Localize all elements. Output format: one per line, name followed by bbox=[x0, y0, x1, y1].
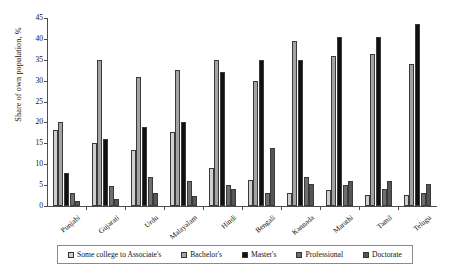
legend-label: Some college to Associate's bbox=[77, 250, 161, 259]
y-axis-tick-label: 5 bbox=[25, 181, 43, 189]
legend-item[interactable]: Some college to Associate's bbox=[68, 250, 161, 259]
legend-item[interactable]: Bachelor's bbox=[181, 250, 222, 259]
y-axis-tick-label: 40 bbox=[25, 35, 43, 43]
chart-legend: Some college to Associate'sBachelor'sMas… bbox=[57, 245, 413, 264]
y-axis-tick-label: 35 bbox=[25, 56, 43, 64]
legend-swatch-icon bbox=[242, 252, 248, 258]
plot-area: 051015202530354045 PunjabiGujaratiUrduMa… bbox=[47, 18, 437, 207]
x-axis-tick-mark bbox=[281, 207, 282, 210]
y-axis-tick-label: 0 bbox=[25, 202, 43, 210]
legend-label: Doctorate bbox=[372, 250, 402, 259]
x-axis-tick-mark bbox=[125, 207, 126, 210]
bar-group bbox=[365, 18, 392, 206]
bar bbox=[170, 132, 175, 206]
legend-swatch-icon bbox=[68, 252, 74, 258]
bar bbox=[214, 60, 219, 206]
bar bbox=[248, 180, 253, 206]
bar bbox=[226, 185, 231, 206]
bar bbox=[382, 189, 387, 206]
bar bbox=[64, 173, 69, 206]
y-axis-tick-mark bbox=[44, 122, 47, 123]
bar bbox=[114, 199, 119, 206]
x-axis-tick-mark bbox=[164, 207, 165, 210]
bar bbox=[376, 37, 381, 206]
y-axis-tick-label: 25 bbox=[25, 98, 43, 106]
y-axis-tick-label: 15 bbox=[25, 140, 43, 148]
bar bbox=[153, 193, 158, 206]
bar bbox=[409, 64, 414, 206]
bar bbox=[97, 60, 102, 206]
bar bbox=[292, 41, 297, 206]
y-axis-tick-mark bbox=[44, 18, 47, 19]
y-axis-tick-mark bbox=[44, 164, 47, 165]
bar bbox=[387, 181, 392, 206]
bar bbox=[421, 193, 426, 206]
bar bbox=[75, 201, 80, 206]
bar bbox=[259, 60, 264, 206]
legend-swatch-icon bbox=[181, 252, 187, 258]
bar bbox=[253, 81, 258, 206]
legend-swatch-icon bbox=[363, 252, 369, 258]
bar bbox=[404, 195, 409, 206]
bar bbox=[181, 122, 186, 206]
bar bbox=[337, 37, 342, 206]
y-axis-tick-label: 20 bbox=[25, 119, 43, 127]
bar bbox=[415, 24, 420, 206]
bar bbox=[231, 189, 236, 206]
bar bbox=[131, 150, 136, 206]
legend-item[interactable]: Doctorate bbox=[363, 250, 402, 259]
bar bbox=[348, 181, 353, 206]
bar-group bbox=[287, 18, 314, 206]
y-axis-tick-label: 10 bbox=[25, 160, 43, 168]
bar-group bbox=[92, 18, 119, 206]
bar bbox=[365, 195, 370, 206]
y-axis-line bbox=[47, 18, 48, 207]
bar bbox=[370, 54, 375, 206]
bar-chart: Share of own population, % 0510152025303… bbox=[0, 0, 449, 274]
legend-swatch-icon bbox=[296, 252, 302, 258]
bar bbox=[103, 139, 108, 206]
bar bbox=[270, 148, 275, 206]
y-axis-title: Share of own population, % bbox=[14, 0, 23, 155]
legend-label: Bachelor's bbox=[190, 250, 222, 259]
bar bbox=[298, 60, 303, 206]
x-axis-tick-mark bbox=[203, 207, 204, 210]
x-axis-tick-mark bbox=[86, 207, 87, 210]
bar bbox=[331, 56, 336, 206]
bar bbox=[426, 184, 431, 206]
y-axis-tick-mark bbox=[44, 102, 47, 103]
bar bbox=[58, 122, 63, 206]
y-axis-tick-label: 45 bbox=[25, 14, 43, 22]
y-axis-tick-mark bbox=[44, 81, 47, 82]
bar bbox=[187, 181, 192, 206]
legend-item[interactable]: Professional bbox=[296, 250, 343, 259]
bar bbox=[304, 177, 309, 206]
y-axis-tick-label: 30 bbox=[25, 77, 43, 85]
x-axis-tick-mark bbox=[320, 207, 321, 210]
y-axis-tick-mark bbox=[44, 185, 47, 186]
bar bbox=[136, 77, 141, 207]
bar bbox=[265, 193, 270, 206]
bar bbox=[209, 168, 214, 206]
x-axis-tick-mark bbox=[242, 207, 243, 210]
legend-label: Professional bbox=[305, 250, 343, 259]
bar bbox=[148, 177, 153, 206]
bar-group bbox=[170, 18, 197, 206]
bar bbox=[109, 186, 114, 206]
x-axis-tick-mark bbox=[398, 207, 399, 210]
bar bbox=[326, 190, 331, 206]
y-axis-tick-mark bbox=[44, 143, 47, 144]
bar-group bbox=[404, 18, 431, 206]
y-axis-tick-mark bbox=[44, 39, 47, 40]
y-axis-tick-mark bbox=[44, 206, 47, 207]
bar bbox=[287, 193, 292, 206]
bar bbox=[175, 70, 180, 206]
bar-group bbox=[326, 18, 353, 206]
bar bbox=[309, 184, 314, 206]
legend-item[interactable]: Master's bbox=[242, 250, 276, 259]
bar-group bbox=[131, 18, 158, 206]
bar-group bbox=[209, 18, 236, 206]
x-axis-tick-mark bbox=[359, 207, 360, 210]
bar bbox=[192, 196, 197, 206]
bar bbox=[92, 143, 97, 206]
